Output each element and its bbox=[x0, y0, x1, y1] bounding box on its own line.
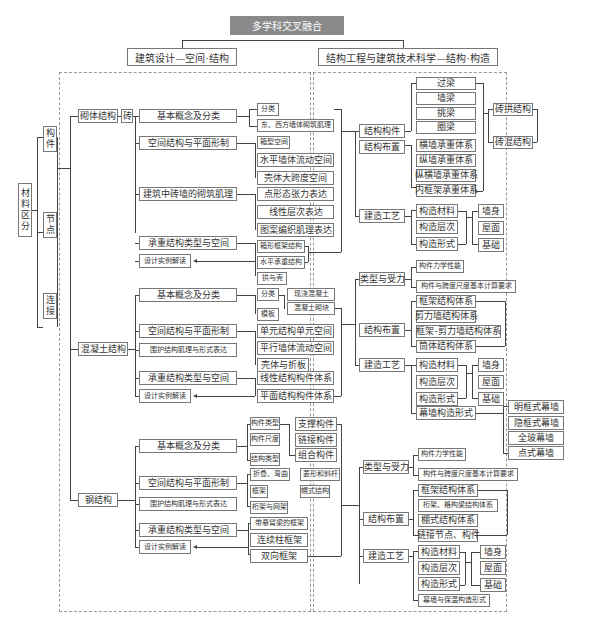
right-masonry-layout: 结构布置 bbox=[359, 140, 405, 154]
force-item: 构件力学性能 bbox=[418, 448, 466, 461]
member-item: 过梁 bbox=[416, 77, 476, 90]
connector bbox=[476, 191, 483, 192]
layout-item: 横墙承重体系 bbox=[416, 139, 476, 152]
connector bbox=[411, 210, 416, 211]
steel-basic-item: 构件类型 bbox=[250, 417, 280, 430]
connector bbox=[249, 109, 257, 110]
masonry-basic-item: 分类 bbox=[257, 103, 279, 116]
member-item: 墙梁 bbox=[416, 92, 476, 105]
connector bbox=[488, 109, 489, 142]
connector bbox=[289, 455, 295, 456]
connector bbox=[248, 554, 250, 555]
connector bbox=[182, 40, 403, 41]
concrete-basic-item: 分类 bbox=[257, 288, 279, 301]
member-item: 圈梁 bbox=[416, 121, 476, 134]
concrete-space-item: 单元结构单元空间 bbox=[257, 324, 334, 338]
char: 区 bbox=[21, 210, 30, 221]
connector bbox=[413, 551, 418, 552]
masonry-texture-item: 点形态张力表达 bbox=[257, 187, 334, 201]
right-steel-layout: 结构布置 bbox=[363, 512, 409, 526]
craft-item: 构造形式 bbox=[416, 237, 458, 251]
connector bbox=[237, 530, 248, 531]
connector bbox=[305, 262, 308, 263]
connector bbox=[411, 267, 416, 268]
concrete-branch: 空间结构与平面形制 bbox=[139, 324, 237, 338]
connector bbox=[488, 142, 493, 143]
char: 接 bbox=[46, 306, 55, 317]
connector bbox=[247, 474, 250, 475]
connector bbox=[355, 505, 359, 506]
part-item: 基础 bbox=[480, 578, 506, 592]
connector bbox=[411, 210, 412, 244]
connector bbox=[247, 424, 250, 425]
connector bbox=[478, 490, 498, 491]
steel-branch: 承重结构类型与空间 bbox=[139, 523, 237, 537]
connector bbox=[237, 194, 255, 195]
concrete-type-item: 混凝土砌块 bbox=[287, 302, 335, 315]
masonry-branch: 基本概念及分类 bbox=[139, 109, 237, 123]
concrete-branch: 基本概念及分类 bbox=[139, 288, 237, 302]
char: 材 bbox=[21, 188, 30, 199]
connector bbox=[413, 455, 414, 475]
connector bbox=[237, 378, 255, 379]
connector bbox=[411, 187, 416, 188]
masonry-basic-item: 东、西方墙体砌筑肌理 bbox=[257, 119, 334, 132]
steel-space-item: 折叠、弯曲 bbox=[250, 468, 290, 481]
connector bbox=[413, 535, 418, 536]
type-item: 砖拱结构 bbox=[493, 103, 533, 116]
connector bbox=[413, 551, 414, 600]
diagram-title: 多学科交叉融合 bbox=[230, 16, 344, 35]
part-item: 墙身 bbox=[480, 545, 506, 559]
connector bbox=[411, 365, 412, 413]
connector bbox=[460, 585, 465, 586]
layout-item: 纵横墙承重体系 bbox=[416, 169, 476, 182]
material-box: 材料区分 bbox=[18, 183, 32, 237]
connector bbox=[471, 585, 480, 586]
layout-item: 框架结构体系 bbox=[418, 484, 478, 497]
connector bbox=[118, 500, 135, 501]
layout-item: 链接节点、构件 bbox=[418, 529, 478, 542]
connector bbox=[237, 446, 247, 447]
steel-member-item: 链接构件 bbox=[295, 433, 337, 447]
steel-space-item: 桁架与网架 bbox=[250, 501, 288, 514]
steel-structure: 钢结构 bbox=[78, 493, 118, 507]
connector bbox=[405, 131, 411, 132]
connector bbox=[488, 109, 493, 110]
concrete-space-item: 平行墙体流动空间 bbox=[257, 341, 334, 355]
steel-member-item: 支撑构件 bbox=[295, 417, 337, 431]
char: 料 bbox=[21, 199, 30, 210]
connector bbox=[458, 398, 466, 399]
part-item: 基础 bbox=[478, 238, 504, 252]
connector bbox=[478, 535, 507, 536]
connector bbox=[334, 396, 341, 397]
steel-branch-case: 设计实例解读 bbox=[139, 540, 191, 554]
connector bbox=[248, 523, 249, 554]
layout-item: 桁架、格构梁结构体系 bbox=[418, 499, 498, 512]
connector bbox=[458, 365, 466, 366]
connector bbox=[249, 109, 250, 126]
connector bbox=[135, 295, 136, 396]
connector bbox=[237, 243, 255, 244]
connector bbox=[197, 547, 248, 548]
craft-item: 构造材料 bbox=[416, 204, 458, 218]
connector bbox=[413, 490, 414, 535]
concrete-branch: 承重结构类型与空间 bbox=[139, 371, 237, 385]
craft-item: 幕墙构造形式 bbox=[416, 406, 476, 420]
part-item: 屋面 bbox=[478, 375, 504, 389]
layout-item: 棚式结构体系 bbox=[418, 514, 478, 527]
connector bbox=[237, 295, 255, 296]
connector bbox=[359, 467, 360, 584]
connector bbox=[341, 131, 355, 132]
layout-item: 纵墙承重体系 bbox=[416, 154, 476, 167]
right-masonry-craft: 建造工艺 bbox=[359, 209, 405, 223]
connector bbox=[355, 131, 356, 216]
connector bbox=[247, 424, 248, 460]
steel-space-extra: 幌式结构 bbox=[300, 485, 330, 498]
connector bbox=[411, 301, 416, 302]
masonry-texture-item: 图案编织肌理表达 bbox=[257, 223, 334, 237]
concrete-bearing-item: 线性结构构件体系 bbox=[257, 371, 334, 385]
curtain-item: 明框式幕墙 bbox=[508, 400, 564, 414]
connector bbox=[503, 406, 508, 407]
force-item: 构件与跨度尺度基本计算要求 bbox=[418, 468, 518, 481]
masonry-bearing-item: 拱与壳 bbox=[257, 272, 287, 285]
